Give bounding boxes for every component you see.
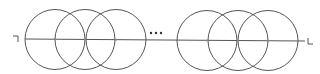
center-dot [206, 39, 208, 41]
center-dot [115, 39, 117, 41]
diagram-svg [0, 0, 320, 74]
center-dot [84, 39, 86, 41]
center-dot [267, 40, 269, 42]
circle-chain-diagram [0, 0, 320, 74]
ellipsis-icon [150, 32, 162, 34]
right-end-marker [308, 38, 313, 44]
center-line [25, 39, 305, 41]
left-end-marker [13, 36, 18, 42]
center-dot [54, 38, 56, 40]
center-dot [237, 40, 239, 42]
